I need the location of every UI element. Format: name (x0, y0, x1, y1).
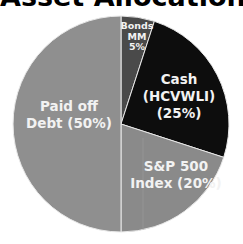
slice-label-s-p-500-index: S&P 500Index (20%) (130, 158, 222, 191)
pie-chart: BondsMM5%Cash(HCVWLI)(25%)S&P 500Index (… (0, 0, 243, 244)
